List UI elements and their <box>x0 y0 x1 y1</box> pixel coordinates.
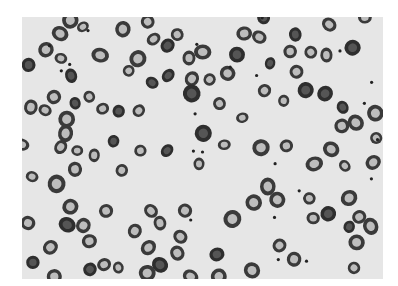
cells-layer <box>22 17 383 279</box>
blood-smear-micrograph <box>22 17 383 279</box>
